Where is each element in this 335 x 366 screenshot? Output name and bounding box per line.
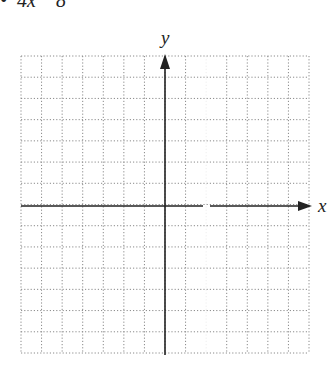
x-axis-label: x: [317, 195, 327, 216]
x-axis: [21, 201, 312, 211]
blank-coordinate-grid: x y: [0, 0, 335, 366]
x-axis-arrow-icon: [298, 201, 312, 211]
y-axis-label: y: [159, 27, 170, 48]
